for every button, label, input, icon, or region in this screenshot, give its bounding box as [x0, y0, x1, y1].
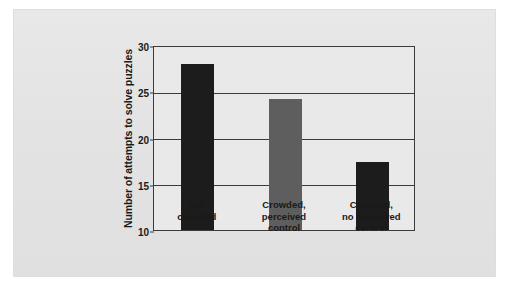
y-tick-label-20: 20	[138, 134, 154, 145]
y-tick-label-25: 25	[138, 88, 154, 99]
x-axis-label-3: Crowded, no perceived control	[328, 199, 415, 234]
y-axis-title: Number of attempts to solve puzzles	[119, 46, 137, 231]
y-tick-label-30: 30	[138, 42, 154, 53]
y-tick-label-15: 15	[138, 180, 154, 191]
x-axis-label-1: Not crowded	[153, 199, 240, 222]
x-axis-label-2: Crowded, perceived control	[240, 199, 327, 234]
chart-panel: Number of attempts to solve puzzles 1015…	[14, 10, 495, 276]
figure-container: Number of attempts to solve puzzles 1015…	[0, 0, 509, 287]
y-tick-label-10: 10	[138, 227, 154, 238]
